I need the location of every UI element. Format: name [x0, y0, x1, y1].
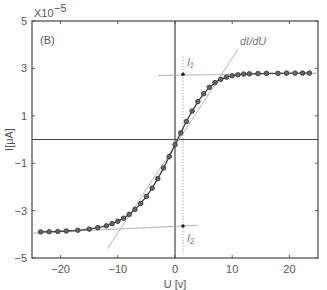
y-exponent-label: X10 [34, 7, 54, 19]
data-marker [127, 212, 132, 217]
data-marker [110, 221, 115, 226]
data-marker [207, 85, 212, 90]
data-marker [121, 216, 126, 221]
data-marker [256, 71, 261, 76]
data-marker [75, 228, 80, 233]
data-marker [178, 131, 183, 136]
data-marker [264, 71, 269, 76]
data-marker [307, 71, 312, 76]
y-tick-label: 5 [21, 15, 27, 27]
data-marker [144, 194, 149, 199]
data-marker [104, 223, 109, 228]
y-exponent-power: −5 [54, 2, 67, 14]
x-tick-label: 0 [172, 263, 178, 275]
data-marker [247, 72, 252, 77]
x-tick-label: −20 [51, 263, 70, 275]
data-marker [64, 229, 69, 234]
data-marker [276, 71, 281, 76]
data-marker [201, 91, 206, 96]
i2-point [181, 224, 185, 228]
i1-point [181, 73, 185, 77]
y-tick-label: −5 [14, 252, 27, 264]
x-tick-label: 10 [226, 263, 238, 275]
data-marker [150, 186, 155, 191]
y-tick-label: −1 [14, 157, 27, 169]
data-marker [184, 119, 189, 124]
x-tick-label: −10 [108, 263, 127, 275]
y-tick-label: −3 [14, 205, 27, 217]
data-marker [87, 227, 92, 232]
data-marker [293, 71, 298, 76]
data-marker [38, 230, 43, 235]
data-marker [300, 71, 305, 76]
data-marker [156, 176, 161, 181]
data-marker [116, 219, 121, 224]
i2-label: I₂ [187, 232, 195, 244]
didu-label: dI/dU [240, 35, 266, 47]
x-axis-title: U [v] [164, 278, 187, 290]
data-marker [224, 75, 229, 80]
i1-label: I₁ [187, 56, 194, 68]
data-marker [196, 99, 201, 104]
y-tick-label: 1 [21, 110, 27, 122]
y-axis-title: I[μA] [3, 128, 15, 151]
data-marker [236, 72, 241, 77]
data-marker [47, 229, 52, 234]
data-marker [190, 109, 195, 114]
data-marker [218, 77, 223, 82]
y-tick-label: 3 [21, 62, 27, 74]
data-marker [241, 72, 246, 77]
data-marker [95, 225, 100, 230]
data-marker [167, 154, 172, 159]
data-marker [173, 142, 178, 147]
data-marker [133, 207, 138, 212]
x-tick-label: 20 [283, 263, 295, 275]
data-marker [230, 73, 235, 78]
panel-label: (B) [40, 34, 55, 46]
data-marker [161, 166, 166, 171]
iv-chart: −20−1001020531−1−3−5X10−5(B)U [v]I[μA]I₁… [0, 0, 327, 290]
data-marker [138, 201, 143, 206]
data-marker [55, 229, 60, 234]
data-marker [213, 80, 218, 85]
data-marker [284, 71, 289, 76]
